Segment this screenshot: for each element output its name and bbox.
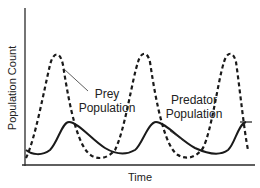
y-axis-label: Population Count <box>6 46 18 130</box>
predator-label-leader <box>170 131 184 141</box>
predator-population-line <box>26 122 246 154</box>
predator-prey-chart: Prey Population Predator Population Time… <box>0 0 260 188</box>
predator-label-line2: Population <box>166 107 223 121</box>
x-axis-label: Time <box>128 171 152 183</box>
prey-label-leader <box>64 69 88 91</box>
prey-label-line2: Population <box>79 101 136 115</box>
prey-label-line1: Prey <box>95 87 120 101</box>
predator-label-line1: Predator <box>171 93 217 107</box>
